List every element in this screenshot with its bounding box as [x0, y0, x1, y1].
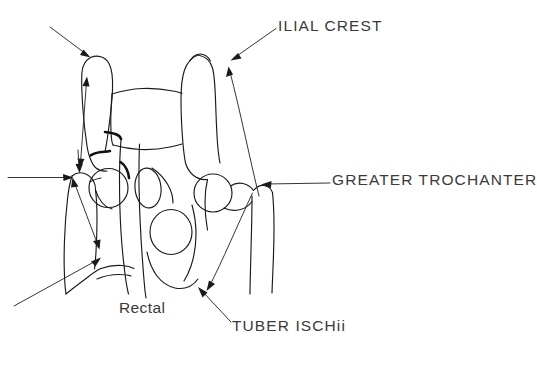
label-ilial-crest: ILIAL CREST: [278, 18, 383, 34]
right-ischium-outline: [205, 180, 208, 231]
arrow-left-trochanter-tick-head: [76, 164, 84, 174]
left-greater-trochanter-outline: [72, 173, 96, 190]
arrow-lower-left-line: [14, 261, 97, 307]
left-femoral-neck: [96, 190, 113, 209]
arrow-ilial-crest-line: [234, 29, 276, 59]
label-rectal: Rectal: [119, 300, 165, 316]
right-ilium-outline-medial: [181, 55, 198, 163]
annotation-arrows-group: [8, 27, 330, 322]
rectal-shadow-right-border: [139, 144, 146, 298]
left-ilium-inferior-edge: [91, 151, 111, 156]
arrow-trochanter-to-ischium-head: [207, 281, 216, 292]
right-femoral-head: [194, 174, 232, 212]
arrow-greater-trochanter-line: [266, 183, 330, 184]
right-obturator-foramen: [150, 210, 192, 255]
left-ilium-outline: [82, 58, 91, 160]
sacrum-left-border: [111, 94, 113, 145]
sacrum-superior-border: [112, 88, 182, 94]
left-ischium-arc: [101, 265, 134, 268]
left-ilium-outline-lateral: [91, 56, 113, 152]
right-femur-lateral-shaft: [272, 193, 274, 294]
measure-ilium-length-line: [81, 82, 87, 163]
left-femur-distal-flare: [66, 269, 101, 295]
label-greater-trochanter: GREATER TROCHANTER: [332, 172, 537, 188]
measure-femoral-neck-line: [75, 183, 98, 244]
sacrum-inferior-border: [113, 144, 182, 150]
label-tuber-ischii: TUBER ISCHii: [232, 318, 346, 334]
arrow-right-ilium-long-head: [226, 67, 233, 78]
arrow-greater-trochanter-head: [261, 181, 272, 188]
measure-femoral-neck-head-top: [71, 178, 79, 188]
arrow-right-ilium-long-line: [230, 72, 259, 196]
arrow-left-trochanter-head: [63, 174, 74, 181]
right-ilium-body: [186, 163, 208, 180]
right-ilium-outline-lateral: [198, 55, 220, 163]
right-femoral-neck: [231, 183, 254, 190]
arrow-left-ilial-crest-line: [50, 27, 88, 56]
central-pelvic-ring-lower: [147, 252, 190, 289]
arrow-tuber-ischii-line: [202, 291, 231, 322]
right-femur-medial-shaft: [250, 196, 252, 294]
arrow-trochanter-to-ischium-line: [210, 193, 253, 286]
measure-ilium-length-head-top: [83, 77, 90, 87]
left-femoral-head: [89, 169, 128, 208]
ischial-tuberosity-notch: [190, 279, 199, 287]
rectal-shadow-notch: [121, 162, 130, 178]
